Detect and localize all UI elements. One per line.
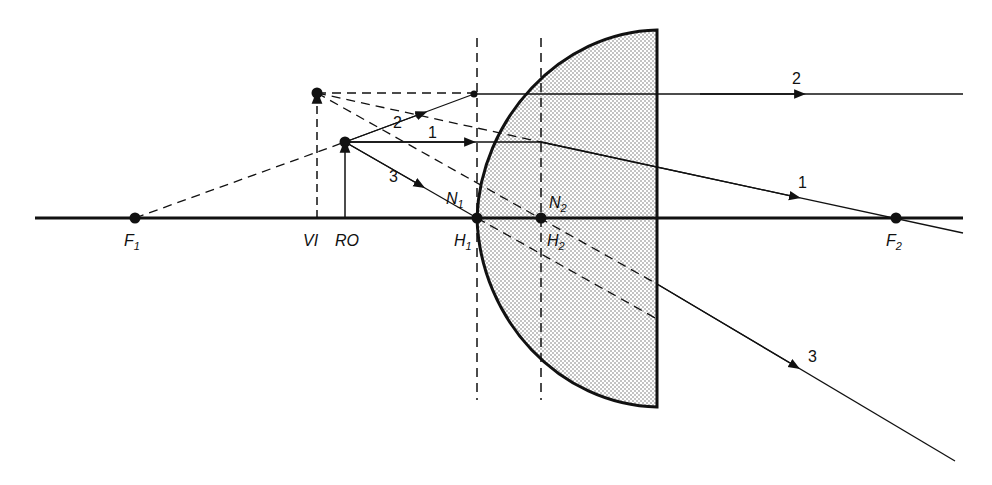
label-real-object: RO — [335, 232, 359, 249]
label-ray-3-out: 3 — [808, 348, 817, 365]
label-h1: H1 — [454, 232, 472, 252]
label-f2: F2 — [886, 232, 902, 252]
label-virtual-image: VI — [303, 232, 319, 249]
point-h2 — [536, 213, 547, 224]
point-f2 — [891, 213, 902, 224]
point-f1 — [130, 213, 141, 224]
label-n1: N1 — [446, 190, 464, 210]
object-tip — [340, 137, 351, 148]
label-ray-2-in: 2 — [393, 114, 402, 131]
label-f1: F1 — [124, 232, 140, 252]
ray-diagram: F1 F2 H1 H2 N1 N2 VI RO 3 2 1 2 1 3 — [0, 0, 992, 485]
ray-2-virtual — [135, 142, 345, 218]
label-ray-1-in: 1 — [428, 124, 437, 141]
label-ray-3-in: 3 — [389, 168, 398, 185]
label-ray-1-out: 1 — [798, 174, 807, 191]
image-tip — [312, 88, 323, 99]
point-h1 — [472, 213, 483, 224]
label-ray-2-out: 2 — [792, 70, 801, 87]
